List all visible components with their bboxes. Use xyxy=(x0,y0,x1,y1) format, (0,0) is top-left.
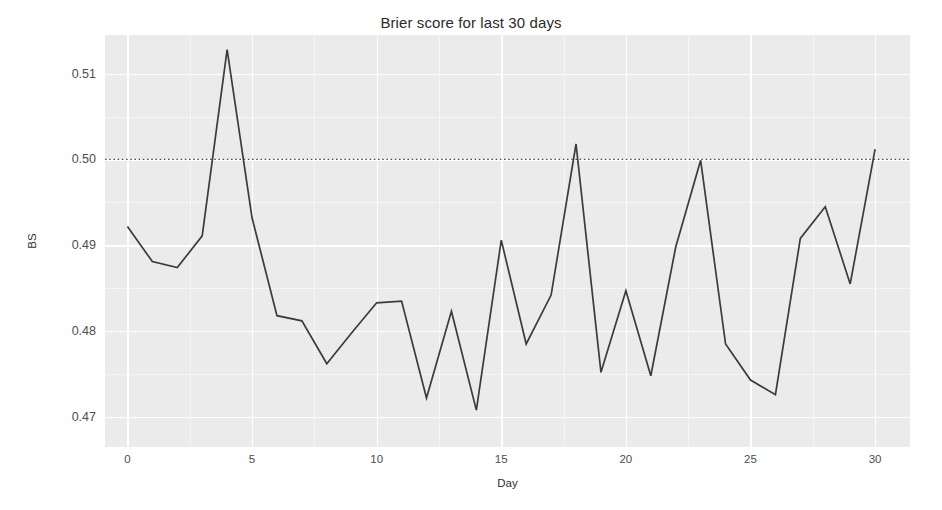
x-axis-tick-label: 20 xyxy=(619,453,632,465)
x-axis-tick-label: 10 xyxy=(370,453,383,465)
x-axis-tick-labels: 051015202530 xyxy=(105,453,910,471)
brier-score-line xyxy=(127,50,875,411)
x-axis-tick-label: 15 xyxy=(495,453,508,465)
chart-title: Brier score for last 30 days xyxy=(0,14,942,31)
brier-score-chart-figure: Brier score for last 30 days 0.470.480.4… xyxy=(0,0,942,510)
x-axis-tick-label: 0 xyxy=(124,453,130,465)
y-axis-title-container: BS xyxy=(26,35,42,447)
y-axis-title: BS xyxy=(26,35,38,447)
x-axis-tick-label: 30 xyxy=(869,453,882,465)
brier-score-line-layer xyxy=(105,35,910,447)
x-axis-title: Day xyxy=(105,477,910,489)
plot-panel xyxy=(105,35,910,447)
x-axis-tick-label: 25 xyxy=(744,453,757,465)
x-axis-tick-label: 5 xyxy=(249,453,255,465)
